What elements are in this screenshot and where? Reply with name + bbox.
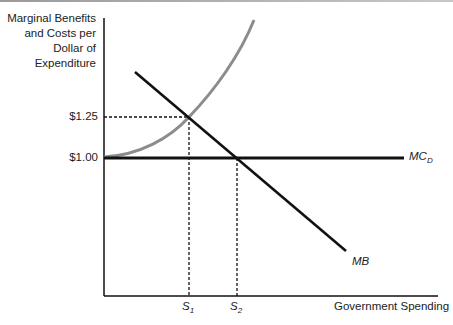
mb-line (135, 72, 346, 251)
mcd-label-sub: D (427, 156, 433, 165)
rising-mc-curve (104, 20, 254, 157)
mcd-label: MCD (409, 150, 433, 165)
x-axis-label: Government Spending (334, 300, 449, 312)
s1-label-main: S (182, 300, 190, 312)
s1-label: S1 (182, 300, 194, 315)
mcd-label-main: MC (409, 150, 427, 162)
s2-label-main: S (230, 300, 238, 312)
tick-100: $1.00 (58, 151, 98, 163)
mb-label: MB (352, 255, 369, 267)
s2-label: S2 (230, 300, 242, 315)
s2-label-sub: 2 (238, 306, 242, 315)
tick-125: $1.25 (58, 110, 98, 122)
s1-label-sub: 1 (190, 306, 194, 315)
